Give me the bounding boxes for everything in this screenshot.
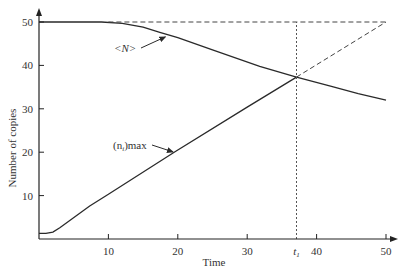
anno-max-tail: )max: [124, 139, 147, 152]
annotation-ni-max-label: (ni)max: [113, 139, 147, 153]
chart: 1020304050 1020304050 t1 Time Number of …: [0, 0, 402, 274]
y-tick-label: 20: [22, 146, 34, 158]
annotation-mean-n-arrow: [141, 37, 165, 48]
x-ticks: 1020304050: [103, 234, 392, 257]
annotation-mean-n-label: <N>: [114, 42, 136, 54]
t1-tick-sub: 1: [296, 251, 300, 259]
x-tick-label: 30: [242, 245, 254, 257]
x-axis-arrowhead: [390, 236, 398, 242]
y-tick-label: 10: [22, 190, 34, 202]
series-layer: [39, 22, 386, 239]
annotation-ni-max-arrow: [152, 145, 173, 152]
x-axis-label: Time: [203, 256, 226, 268]
t1-tick-label: t1: [293, 245, 300, 259]
y-axis-label: Number of copies: [6, 109, 18, 188]
series-n-line: [39, 22, 386, 100]
x-tick-label: 10: [103, 245, 115, 257]
x-tick-label: 20: [172, 245, 184, 257]
y-tick-label: 30: [22, 103, 34, 115]
y-tick-label: 40: [22, 59, 34, 71]
series-n-i-max-extrapolation-line: [297, 22, 387, 77]
y-axis-arrowhead: [36, 8, 42, 16]
y-tick-label: 50: [22, 16, 34, 28]
x-tick-label: 40: [311, 245, 323, 257]
y-ticks: 1020304050: [22, 16, 44, 202]
series-n-i-max-line: [39, 77, 297, 233]
x-tick-label: 50: [381, 245, 393, 257]
